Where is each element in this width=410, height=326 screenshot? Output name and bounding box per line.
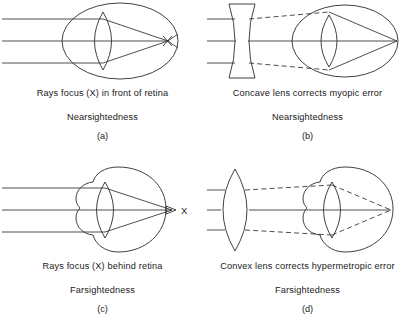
panel-d-condition: Farsightedness xyxy=(205,285,410,295)
panel-a-condition: Nearsightedness xyxy=(0,112,205,122)
panel-b-condition: Nearsightedness xyxy=(205,112,410,122)
refracted-ray-bottom-b xyxy=(329,41,397,70)
panel-c-condition: Farsightedness xyxy=(0,285,205,295)
diverged-ray-top-b xyxy=(249,12,329,19)
diverging-ray-top-a xyxy=(168,34,178,41)
panel-b-diagram xyxy=(205,0,410,85)
diverged-ray-bottom-b xyxy=(249,63,329,70)
panel-d: Convex lens corrects hypermetropic error… xyxy=(205,163,410,326)
panel-a-caption: Rays focus (X) in front of retina xyxy=(0,88,205,98)
panel-b: Concave lens corrects myopic error Nears… xyxy=(205,0,410,163)
eyeball-outline-d xyxy=(303,167,393,252)
optics-figure: Rays focus (X) in front of retina Nearsi… xyxy=(0,0,410,326)
refracted-ray-bottom-a xyxy=(103,41,168,63)
panel-c-caption: Rays focus (X) behind retina xyxy=(0,261,205,271)
refracted-ray-bottom-c xyxy=(105,210,172,232)
refracted-ray-top-b xyxy=(329,12,397,41)
panel-a: Rays focus (X) in front of retina Nearsi… xyxy=(0,0,205,163)
panel-d-letter: (d) xyxy=(205,304,410,314)
eyeball-outline-c xyxy=(76,167,166,252)
panel-a-diagram xyxy=(0,0,205,85)
converged-ray-top-d xyxy=(245,185,332,190)
panel-d-caption: Convex lens corrects hypermetropic error xyxy=(205,261,410,271)
panel-c-letter: (c) xyxy=(0,304,205,314)
convex-corrective-lens xyxy=(223,169,247,251)
focal-x-label-c: X xyxy=(181,205,188,216)
refracted-ray-top-d xyxy=(332,185,391,210)
panel-c-diagram: X xyxy=(0,163,205,258)
panel-b-letter: (b) xyxy=(205,131,410,141)
refracted-ray-bottom-d xyxy=(332,210,391,235)
diverging-ray-bottom-a xyxy=(168,41,178,48)
refracted-ray-top-a xyxy=(103,19,168,41)
converged-ray-bottom-d xyxy=(245,230,332,235)
panel-a-letter: (a) xyxy=(0,131,205,141)
panel-b-caption: Concave lens corrects myopic error xyxy=(205,88,410,98)
panel-d-diagram xyxy=(205,163,410,258)
panel-c: X Rays focus (X) behind retina Farsighte… xyxy=(0,163,205,326)
